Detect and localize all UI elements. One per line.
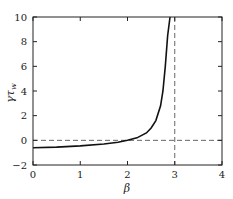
x-tick-label: 4	[219, 169, 225, 180]
y-axis-label: γτw	[4, 83, 18, 103]
y-axis-ticks: −20246810	[12, 12, 222, 171]
x-axis-ticks: 01234	[30, 17, 225, 180]
y-tick-label: −2	[12, 160, 27, 171]
x-tick-label: 3	[172, 169, 178, 180]
y-tick-label: 8	[21, 36, 27, 47]
x-tick-label: 0	[30, 169, 36, 180]
y-tick-label: 4	[21, 86, 27, 97]
x-axis-label: β	[123, 182, 130, 195]
reference-lines	[33, 17, 222, 165]
plot-frame	[33, 17, 222, 165]
data-curve	[33, 17, 170, 148]
x-tick-label: 2	[124, 169, 130, 180]
y-tick-label: 6	[21, 61, 27, 72]
x-tick-label: 1	[77, 169, 83, 180]
chart: 01234 −20246810 β γτw	[0, 0, 233, 199]
y-tick-label: 0	[21, 135, 27, 146]
y-tick-label: 10	[14, 12, 27, 23]
y-tick-label: 2	[21, 110, 27, 121]
